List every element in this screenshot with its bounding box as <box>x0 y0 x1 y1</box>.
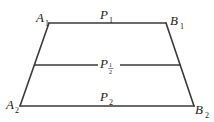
svg-text:2: 2 <box>15 106 19 115</box>
svg-text:2: 2 <box>205 111 209 120</box>
svg-text:A: A <box>35 10 44 25</box>
label-b1: B 1 <box>170 13 184 31</box>
svg-text:A: A <box>5 97 14 112</box>
svg-text:P: P <box>99 7 108 22</box>
svg-text:P: P <box>99 89 108 104</box>
svg-text:B: B <box>195 102 203 117</box>
label-a1: A 1 <box>35 10 49 28</box>
svg-text:1: 1 <box>109 16 113 25</box>
label-b2: B 2 <box>195 102 209 120</box>
label-a2: A 2 <box>5 97 19 115</box>
trapezoid-diagram: A 1 B 1 A 2 B 2 P 1 P 1 2 P 2 <box>0 0 214 122</box>
label-p-half: P 1 2 <box>98 56 120 75</box>
svg-text:2: 2 <box>109 98 113 107</box>
svg-text:1: 1 <box>45 19 49 28</box>
svg-text:B: B <box>170 13 178 28</box>
svg-text:1: 1 <box>109 62 112 68</box>
svg-text:2: 2 <box>109 69 112 75</box>
svg-text:1: 1 <box>180 22 184 31</box>
svg-text:P: P <box>99 56 108 71</box>
label-p2: P 2 <box>99 89 113 107</box>
